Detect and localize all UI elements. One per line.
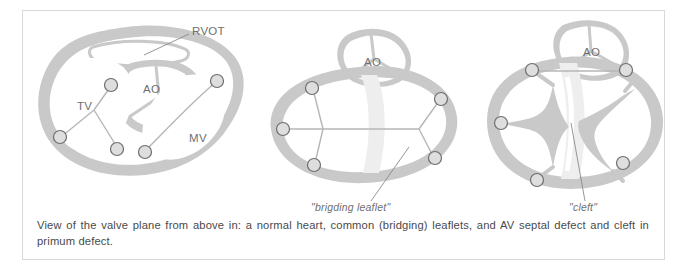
figure-caption: View of the valve plane from above in: a… [37, 218, 649, 249]
diagram-area: RVOT AO TV MV [23, 11, 666, 216]
annulus-marker [495, 117, 508, 130]
cleft-callout: "cleft" [569, 201, 598, 213]
annulus-marker [435, 93, 448, 106]
annulus-marker [308, 159, 321, 172]
annulus-marker [105, 79, 118, 92]
annulus-marker [211, 75, 224, 88]
annulus-marker [531, 174, 544, 187]
bridging-leaflet-callout: "brigding leaflet" [311, 201, 391, 213]
annulus-marker [306, 82, 319, 95]
septal-shadow-band [361, 75, 385, 173]
figure-root: RVOT AO TV MV [0, 0, 697, 273]
panel-normal-heart: RVOT AO TV MV [38, 25, 243, 176]
annulus-marker [620, 64, 633, 77]
ao-label: AO [364, 56, 381, 68]
annulus-marker [617, 157, 630, 170]
annulus-marker [54, 131, 67, 144]
annulus-marker [429, 152, 442, 165]
bridging-leaflet-lines [283, 89, 439, 163]
annulus-marker [277, 123, 290, 136]
valve-plane-diagram: RVOT AO TV MV [23, 11, 666, 216]
panel-common-bridging-leaflets: "brigding leaflet" AO [271, 29, 458, 213]
annulus-marker [111, 143, 124, 156]
ao-label: AO [143, 83, 160, 95]
tv-label: TV [77, 100, 92, 112]
figure-frame: RVOT AO TV MV [22, 10, 665, 260]
annulus-marker [139, 146, 152, 159]
annulus-marker [526, 64, 539, 77]
mv-label: MV [189, 132, 207, 144]
panel-av-septal-defect-cleft: "cleft" AO [487, 20, 663, 213]
ao-label: AO [583, 46, 600, 58]
rvot-label: RVOT [192, 25, 225, 37]
